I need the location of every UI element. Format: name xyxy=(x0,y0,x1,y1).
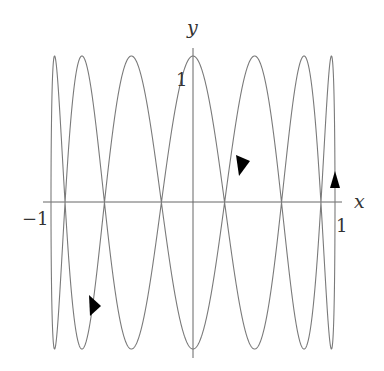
direction-arrow-up-left-icon xyxy=(89,295,101,316)
y-max-tick-label: 1 xyxy=(176,69,187,90)
y-axis-label: y xyxy=(186,16,198,38)
lissajous-figure: y x −1 1 1 xyxy=(0,0,384,371)
x-min-tick-label: −1 xyxy=(22,208,49,229)
x-axis-label: x xyxy=(354,190,365,212)
direction-arrow-up-icon xyxy=(330,171,340,188)
x-max-tick-label: 1 xyxy=(336,215,347,236)
direction-arrow-down-left-icon xyxy=(236,155,250,176)
